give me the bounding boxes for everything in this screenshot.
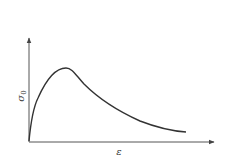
stress-strain-curve	[29, 68, 186, 141]
y-axis-label: σ0	[15, 90, 28, 101]
chart-canvas: σ0 ε	[0, 0, 230, 164]
x-axis-label: ε	[116, 146, 121, 157]
